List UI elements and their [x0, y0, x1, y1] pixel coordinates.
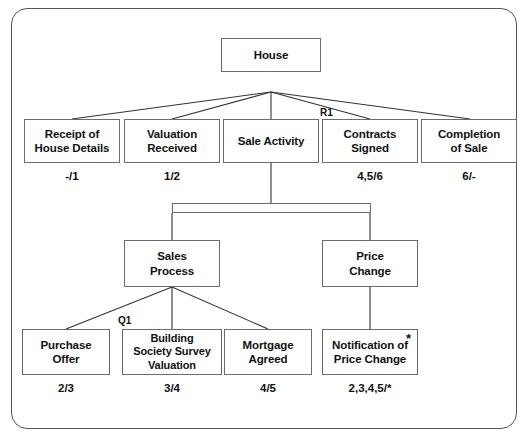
iteration-asterisk-icon: * [406, 332, 411, 345]
node-price-change-label: Price Change [349, 249, 391, 277]
marker-q1: Q1 [118, 315, 131, 326]
node-contracts-signed[interactable]: Contracts Signed [322, 119, 418, 163]
node-notification-of-price-change[interactable]: Notification of Price Change [322, 329, 418, 375]
node-completion-of-sale[interactable]: Completion of Sale [421, 119, 517, 163]
annotation-building-society-survey-valuation: 3/4 [122, 382, 222, 394]
node-sale-activity-label: Sale Activity [238, 134, 305, 148]
annotation-receipt-of-house-details: -/1 [24, 170, 120, 182]
marker-r1: R1 [320, 107, 333, 118]
node-purchase-offer[interactable]: Purchase Offer [22, 329, 110, 375]
diagram-canvas: House Receipt of House Details Valuation… [0, 0, 530, 440]
node-sales-process-label: Sales Process [150, 249, 194, 277]
node-receipt-of-house-details-label: Receipt of House Details [35, 127, 110, 155]
node-sales-process[interactable]: Sales Process [124, 240, 220, 287]
annotation-contracts-signed: 4,5/6 [322, 170, 418, 182]
annotation-purchase-offer: 2/3 [22, 382, 110, 394]
node-contracts-signed-label: Contracts Signed [344, 127, 397, 155]
node-receipt-of-house-details[interactable]: Receipt of House Details [24, 119, 120, 163]
node-house[interactable]: House [221, 38, 321, 72]
node-valuation-received[interactable]: Valuation Received [124, 119, 220, 163]
annotation-notification-of-price-change: 2,3,4,5/* [322, 382, 418, 394]
node-valuation-received-label: Valuation Received [147, 127, 197, 155]
annotation-mortgage-agreed: 4/5 [224, 382, 312, 394]
node-mortgage-agreed-label: Mortgage Agreed [243, 338, 294, 366]
node-completion-of-sale-label: Completion of Sale [438, 127, 500, 155]
node-house-label: House [254, 48, 289, 62]
node-building-society-survey-valuation-label: Building Society Survey Valuation [133, 332, 210, 372]
annotation-valuation-received: 1/2 [124, 170, 220, 182]
annotation-completion-of-sale: 6/- [421, 170, 517, 182]
node-purchase-offer-label: Purchase Offer [41, 338, 92, 366]
node-price-change[interactable]: Price Change [322, 240, 418, 287]
node-sale-activity[interactable]: Sale Activity [223, 119, 319, 163]
node-notification-of-price-change-label: Notification of Price Change [332, 338, 408, 366]
node-mortgage-agreed[interactable]: Mortgage Agreed [224, 329, 312, 375]
sequence-bar [172, 203, 371, 213]
node-building-society-survey-valuation[interactable]: Building Society Survey Valuation [122, 329, 222, 375]
